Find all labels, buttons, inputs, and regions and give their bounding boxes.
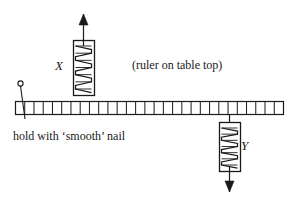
ruler — [16, 102, 284, 115]
nail-annotation: hold with ‘smooth’ nail — [13, 129, 125, 144]
spring-balance-y — [220, 114, 241, 192]
physics-diagram — [0, 0, 298, 200]
ruler-annotation: (ruler on table top) — [132, 58, 222, 73]
force-arrow-head — [225, 181, 234, 192]
ruler-body — [16, 102, 284, 115]
spring-balance-x — [74, 14, 95, 96]
spring-y-label: Y — [241, 138, 248, 154]
diagram-canvas: X Y (ruler on table top) hold with ‘smoo… — [0, 0, 298, 200]
force-arrow-head — [79, 14, 88, 25]
nail-head — [18, 81, 23, 86]
spring-x-label: X — [55, 58, 63, 74]
